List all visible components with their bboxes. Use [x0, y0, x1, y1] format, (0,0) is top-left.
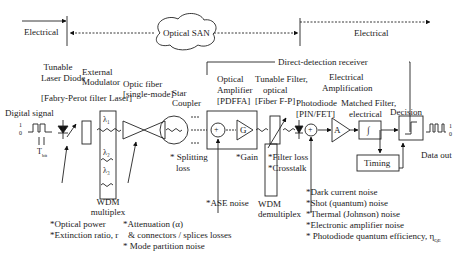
- fiber-label-2: [single-mode]: [123, 89, 173, 99]
- filter-label-2: optical: [263, 85, 288, 95]
- receiver-title: Direct-detection receiver: [278, 57, 368, 67]
- electrical-right-label: Electrical: [354, 28, 388, 38]
- laser-label-2: Laser Diode: [41, 73, 85, 83]
- data-out-label: Data out: [421, 150, 452, 160]
- filter-label-3: [Fiber F-P]: [255, 96, 295, 106]
- modulator-label-2: Modulator: [82, 77, 120, 87]
- coupler-label-1: Star: [172, 88, 187, 98]
- tx-note-2: *Extinction ratio, r: [50, 230, 118, 240]
- rx-note-4: *Electronic amplifier noise: [306, 220, 404, 230]
- coupler-label-2: Coupler: [172, 98, 201, 108]
- rx-note-3: *Thermal (Johnson) noise: [306, 209, 400, 219]
- fiber-note-2: & connectors / splices losses: [128, 230, 231, 240]
- rx-note-5: * Photodiode quantum efficiency, ηQE: [306, 231, 441, 246]
- coupler-note-2: loss: [176, 163, 190, 173]
- output-zero: 0: [449, 129, 452, 139]
- timing-label: Timing: [364, 158, 390, 168]
- photodiode-label-2: [PIN/FET]: [296, 109, 335, 119]
- electrical-left-label: Electrical: [24, 27, 58, 37]
- amplifier-label-2: Amplifier: [217, 85, 253, 95]
- ase-noise-note: *ASE noise: [206, 198, 249, 208]
- modulator-label-1: External: [82, 67, 113, 77]
- fiber-note-3: * Mode partition noise: [123, 241, 205, 251]
- wdm-mux-label-2: multiplex: [88, 207, 128, 217]
- fiber-label-1: Optic fiber: [123, 79, 162, 89]
- elec-amp-symbol: A: [334, 125, 341, 135]
- filter-label-1: Tunable Filter,: [255, 74, 308, 84]
- lambda-2: λ₂: [103, 148, 110, 158]
- amplifier-label-1: Optical: [217, 74, 244, 84]
- laser-note: [Fabry-Perot filter Laser]: [41, 93, 132, 103]
- filter-note-2: *Crosstalk: [268, 163, 307, 173]
- matched-filter-label-1: Matched Filter,: [341, 98, 396, 108]
- integral-symbol: ∫: [367, 125, 369, 135]
- fiber-note-1: *Attenuation (α): [123, 219, 183, 229]
- lambda-3: λ₃: [103, 166, 110, 176]
- wdm-demux-label-1: WDM: [258, 199, 281, 209]
- rx-note-1: *Dark current noise: [306, 187, 377, 197]
- wdm-mux-label-1: WDM: [88, 197, 128, 207]
- rx-note-2: *Shot (quantum) noise: [306, 198, 388, 208]
- amp-sum-symbol: +: [214, 125, 219, 135]
- matched-filter-label-2: electrical: [349, 109, 382, 119]
- pd-sum-symbol: +: [308, 125, 313, 135]
- optical-link-diagram: Electrical Optical SAN Electrical Direct…: [0, 0, 458, 265]
- elec-amp-label-2: Amplification: [322, 83, 373, 93]
- photodiode-label-1: Photodiode: [296, 98, 337, 108]
- decision-label: Decision: [390, 107, 422, 117]
- optical-san-label: Optical SAN: [163, 28, 210, 38]
- digital-signal-label: Digital signal: [5, 108, 54, 118]
- elec-amp-label-1: Electrical: [329, 72, 363, 82]
- amplifier-label-3: [PDFFA]: [217, 96, 250, 106]
- gain-symbol: G: [240, 125, 247, 135]
- gain-note: *Gain: [236, 152, 258, 162]
- lambda-1: λ₁: [103, 115, 110, 125]
- wdm-demux-label-2: demultiplex: [258, 209, 301, 219]
- coupler-note-1: * Splitting: [170, 152, 208, 162]
- laser-label-1: Tunable: [40, 62, 76, 72]
- tbit-label: Tbit: [37, 147, 47, 161]
- filter-note-1: *Filter loss: [268, 152, 308, 162]
- tx-note-1: *Optical power: [50, 219, 106, 229]
- input-zero: 0: [19, 128, 22, 138]
